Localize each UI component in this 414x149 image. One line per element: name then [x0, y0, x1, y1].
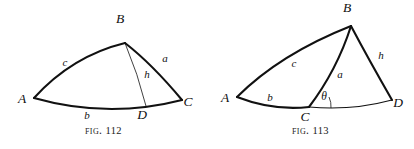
figure-112-caption: Fig. 112 — [0, 124, 207, 136]
figure-112-caption-prefix: Fig. — [85, 124, 102, 136]
fig113-angle-arc-theta — [329, 97, 331, 108]
fig113-vertex-label-D: D — [392, 95, 403, 110]
fig113-angle-label-theta: θ — [321, 90, 327, 102]
fig112-vertex-label-C: C — [183, 94, 193, 109]
fig113-side-label-b: b — [267, 91, 273, 103]
fig112-vertex-label-A: A — [17, 91, 27, 106]
fig112-side-label-c: c — [63, 56, 68, 68]
figure-112-drawing: A B C D c a b h — [0, 0, 207, 130]
fig113-arc-side-b — [237, 97, 309, 108]
fig112-vertex-label-D: D — [136, 107, 147, 122]
fig113-vertex-label-C: C — [300, 109, 310, 124]
fig113-arc-side-a — [309, 26, 351, 107]
figure-113-caption: Fig. 113 — [207, 124, 414, 136]
figure-112-caption-number: 112 — [105, 125, 122, 136]
fig113-side-label-c: c — [292, 57, 297, 69]
figure-113-caption-number: 113 — [312, 125, 329, 136]
fig112-side-label-h: h — [144, 68, 150, 80]
figure-113-drawing: A B C D c a b h θ — [207, 0, 414, 130]
fig113-vertex-label-B: B — [343, 0, 351, 15]
fig113-vertex-label-A: A — [220, 90, 230, 105]
fig112-side-label-a: a — [162, 52, 168, 64]
figure-113-caption-prefix: Fig. — [292, 124, 309, 136]
fig112-arc-side-b — [34, 98, 182, 109]
fig113-side-label-a: a — [337, 68, 343, 80]
figure-112: A B C D c a b h Fig. 112 — [0, 0, 207, 149]
fig113-arc-altitude-h — [351, 26, 392, 100]
fig112-arc-side-c — [34, 43, 125, 98]
fig113-side-label-h: h — [378, 49, 384, 61]
figure-113: A B C D c a b h θ Fig. 113 — [207, 0, 414, 149]
figure-plate: A B C D c a b h Fig. 112 — [0, 0, 414, 149]
fig112-vertex-label-B: B — [116, 11, 124, 26]
fig112-side-label-b: b — [84, 109, 90, 121]
fig112-arc-side-a — [125, 43, 182, 100]
